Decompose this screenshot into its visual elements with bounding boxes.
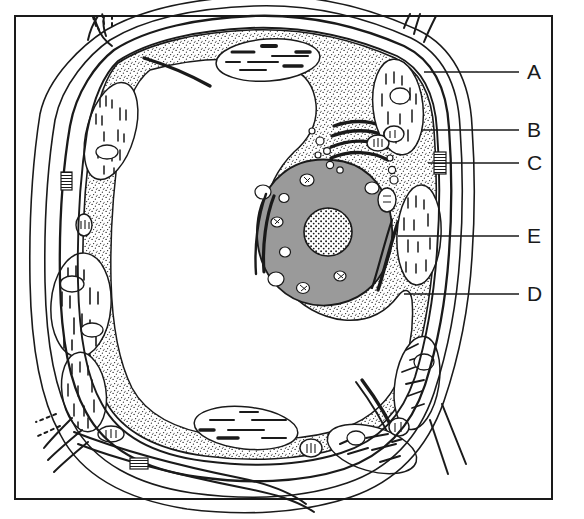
plasmodesmata [61,172,72,190]
label-e: E [527,225,541,246]
label-a: A [527,61,541,82]
mitochondrion [378,188,396,212]
mitochondrion [384,126,404,142]
nucleolus [304,208,352,256]
label-c: C [527,152,542,173]
plasmodesmata [130,458,148,469]
figure-page: A B C E D [0,0,584,519]
plant-cell-diagram [0,0,584,519]
mitochondrion [300,439,322,457]
label-d: D [527,283,542,304]
label-b: B [527,119,541,140]
nucleus [255,160,392,306]
